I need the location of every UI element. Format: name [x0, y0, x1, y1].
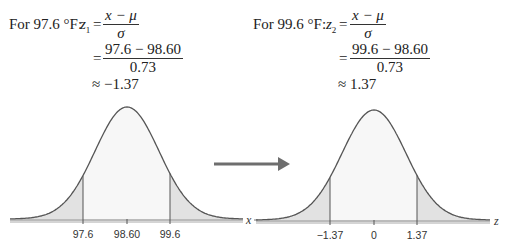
right-tail-fill-high: [417, 175, 490, 220]
z-distribution-chart: −1.37 0 1.37 z: [256, 110, 499, 241]
transform-arrow-icon: [214, 157, 290, 171]
tick-label-0: 0: [371, 229, 377, 241]
tick-label-1-37: 1.37: [407, 229, 428, 241]
tick-label-97-6: 97.6: [73, 228, 94, 240]
tick-label-99-6: 99.6: [160, 228, 181, 240]
right-tail-fill-low: [256, 177, 330, 220]
z-axis-label: z: [493, 214, 499, 228]
left-body-fill: [83, 107, 170, 219]
x-distribution-chart: 97.6 98.60 99.6 x: [10, 107, 258, 240]
x-axis-label: x: [245, 213, 252, 227]
normal-curves-diagram: 97.6 98.60 99.6 x −1.37 0 1.37 z: [0, 0, 512, 252]
left-tail-fill-low: [10, 176, 83, 220]
tick-label-neg-1-37: −1.37: [317, 229, 344, 241]
tick-label-98-60: 98.60: [114, 228, 140, 240]
right-body-fill: [330, 110, 417, 220]
left-tail-fill-high: [170, 174, 243, 219]
